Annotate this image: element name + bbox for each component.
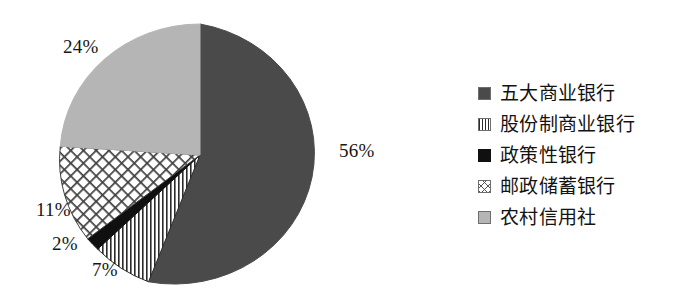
legend-swatch-vertical-stripes-icon — [478, 118, 491, 131]
legend-item-five-major-commercial-banks[interactable]: 五大商业银行 — [478, 78, 678, 109]
legend-swatch-solid-dark-gray-icon — [478, 87, 491, 100]
pie-chart-figure: 24% 56% 11% 2% 7% 五大商业银行 股份制商业银行 政策性银行 邮… — [0, 0, 686, 305]
data-label-policy-banks: 2% — [52, 233, 78, 255]
legend-label: 邮政储蓄银行 — [500, 177, 616, 196]
pie-chart-svg — [58, 22, 342, 288]
legend-item-policy-banks[interactable]: 政策性银行 — [478, 140, 678, 171]
data-label-postal-savings-bank: 11% — [36, 199, 71, 221]
legend-swatch-crosshatch-icon — [478, 180, 491, 193]
legend-label: 五大商业银行 — [500, 84, 616, 103]
chart-legend: 五大商业银行 股份制商业银行 政策性银行 邮政储蓄银行 农村信用社 — [478, 78, 678, 233]
data-label-joint-stock-commercial-banks: 7% — [92, 259, 118, 281]
legend-label: 政策性银行 — [500, 146, 597, 165]
legend-item-rural-credit-cooperatives[interactable]: 农村信用社 — [478, 202, 678, 233]
data-label-five-major-commercial-banks: 56% — [339, 140, 374, 162]
legend-label: 股份制商业银行 — [500, 115, 635, 134]
data-label-rural-credit-cooperatives: 24% — [63, 36, 98, 58]
pie-chart-plot-area — [58, 22, 342, 288]
legend-label: 农村信用社 — [500, 208, 597, 227]
legend-item-joint-stock-commercial-banks[interactable]: 股份制商业银行 — [478, 109, 678, 140]
legend-item-postal-savings-bank[interactable]: 邮政储蓄银行 — [478, 171, 678, 202]
legend-swatch-solid-black-icon — [478, 149, 491, 162]
legend-swatch-solid-light-gray-icon — [478, 211, 491, 224]
